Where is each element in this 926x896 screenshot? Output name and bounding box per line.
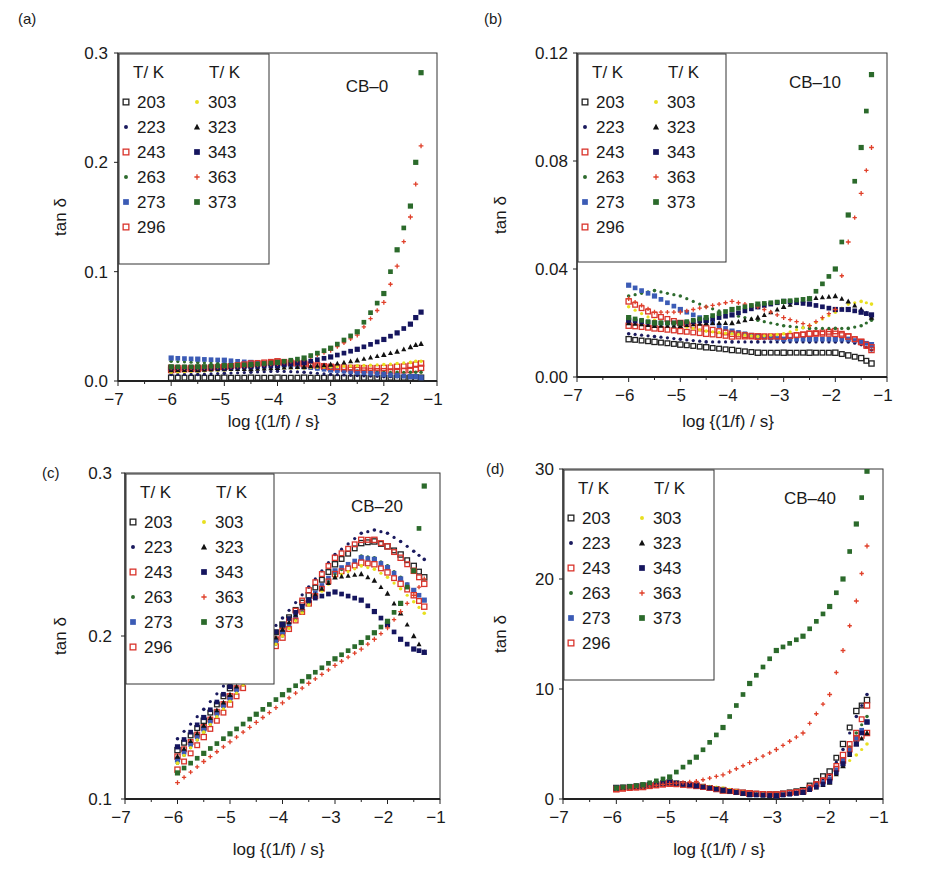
y-axis-label: tan δ <box>491 615 510 653</box>
y-tick-label: 0.2 <box>84 153 108 172</box>
legend-entry: 263 <box>137 168 165 187</box>
y-tick-label: 0.2 <box>88 627 112 646</box>
sample-label: CB–20 <box>351 497 403 516</box>
y-tick-label: 0.08 <box>535 152 568 171</box>
legend-header: T/ K <box>133 63 165 82</box>
x-tick-label: −6 <box>603 808 622 827</box>
legend-entry: 373 <box>653 609 681 628</box>
chart-panel-a: (a)−7−6−5−4−3−2−10.00.10.20.3log {(1/f) … <box>18 10 443 431</box>
x-tick-label: −3 <box>317 390 336 409</box>
y-tick-label: 0.12 <box>535 44 568 63</box>
legend-entry: 263 <box>582 584 610 603</box>
x-tick-label: −3 <box>763 808 782 827</box>
x-tick-label: −7 <box>563 386 582 405</box>
legend-entry: 263 <box>144 588 172 607</box>
x-tick-label: −1 <box>426 808 445 827</box>
legend-entry: 243 <box>144 563 172 582</box>
x-tick-label: −6 <box>157 390 176 409</box>
x-tick-label: −5 <box>667 386 686 405</box>
legend-entry: 343 <box>208 143 236 162</box>
legend-entry: 303 <box>215 513 243 532</box>
legend: T/ KT/ K20322324326327329630332334336337… <box>564 470 714 680</box>
legend-entry: 296 <box>596 218 624 237</box>
y-tick-label: 20 <box>535 570 554 589</box>
legend-entry: 363 <box>208 168 236 187</box>
x-tick-label: −5 <box>656 808 675 827</box>
chart-panel-c: (c)−7−6−5−4−3−2−10.10.20.3log {(1/f) / s… <box>42 464 446 859</box>
x-tick-label: −5 <box>216 808 235 827</box>
y-tick-label: 0 <box>545 790 554 809</box>
x-tick-label: −4 <box>269 808 288 827</box>
legend-entry: 303 <box>653 509 681 528</box>
x-tick-label: −6 <box>615 386 634 405</box>
panel-label: (d) <box>486 460 504 477</box>
x-tick-label: −3 <box>321 808 340 827</box>
y-tick-label: 0.00 <box>535 368 568 387</box>
sample-label: CB–40 <box>784 489 836 508</box>
legend-entry: 223 <box>137 118 165 137</box>
legend-header: T/ K <box>140 483 172 502</box>
legend-entry: 303 <box>667 93 695 112</box>
y-tick-label: 0.0 <box>84 372 108 391</box>
x-tick-label: −4 <box>709 808 728 827</box>
legend-entry: 243 <box>137 143 165 162</box>
legend: T/ KT/ K20322324326327329630332334336337… <box>578 54 726 262</box>
legend-header: T/ K <box>668 63 700 82</box>
chart-panel-b: (b)−7−6−5−4−3−2−10.000.040.080.12log {(1… <box>484 10 893 431</box>
legend-header: T/ K <box>592 63 624 82</box>
legend-entry: 343 <box>653 559 681 578</box>
legend-entry: 323 <box>215 538 243 557</box>
legend-entry: 223 <box>144 538 172 557</box>
panel-label: (b) <box>484 10 502 27</box>
sample-label: CB–0 <box>346 77 389 96</box>
chart-panel-d: (d)−7−6−5−4−3−2−10102030log {(1/f) / s}t… <box>486 460 889 859</box>
x-tick-label: −2 <box>374 808 393 827</box>
x-tick-label: −2 <box>370 390 389 409</box>
series-296 <box>614 730 870 797</box>
series-263 <box>615 715 869 798</box>
legend-entry: 363 <box>667 168 695 187</box>
x-axis-label: log {(1/f) / s} <box>228 412 320 431</box>
y-axis-label: tan δ <box>51 198 70 236</box>
legend-entry: 203 <box>596 93 624 112</box>
legend-entry: 203 <box>582 509 610 528</box>
figure-canvas: (a)−7−6−5−4−3−2−10.00.10.20.3log {(1/f) … <box>0 0 926 896</box>
x-tick-label: −7 <box>549 808 568 827</box>
legend-header: T/ K <box>578 479 610 498</box>
legend-header: T/ K <box>209 63 241 82</box>
legend-entry: 373 <box>215 613 243 632</box>
x-tick-label: −2 <box>816 808 835 827</box>
legend-entry: 363 <box>215 588 243 607</box>
legend: T/ KT/ K20322324326327329630332334336337… <box>126 474 274 684</box>
legend-entry: 323 <box>667 118 695 137</box>
legend-entry: 243 <box>582 559 610 578</box>
legend-entry: 223 <box>582 534 610 553</box>
x-tick-label: −3 <box>770 386 789 405</box>
y-tick-label: 0.3 <box>84 44 108 63</box>
legend-entry: 323 <box>653 534 681 553</box>
legend-entry: 296 <box>582 634 610 653</box>
x-tick-label: −2 <box>822 386 841 405</box>
panel-label: (c) <box>42 464 60 481</box>
legend: T/ KT/ K20322324326327329630332334336337… <box>119 54 269 264</box>
legend-entry: 323 <box>208 118 236 137</box>
sample-label: CB–10 <box>789 73 841 92</box>
x-tick-label: −4 <box>264 390 283 409</box>
x-tick-label: −6 <box>164 808 183 827</box>
x-tick-label: −5 <box>211 390 230 409</box>
x-axis-label: log {(1/f) / s} <box>233 840 325 859</box>
legend-entry: 223 <box>596 118 624 137</box>
y-axis-label: tan δ <box>491 196 510 234</box>
legend-entry: 243 <box>596 143 624 162</box>
legend-header: T/ K <box>216 483 248 502</box>
x-axis-label: log {(1/f) / s} <box>682 412 774 431</box>
y-tick-label: 0.1 <box>88 790 112 809</box>
panel-label: (a) <box>18 10 36 27</box>
legend-entry: 303 <box>208 93 236 112</box>
legend-entry: 343 <box>215 563 243 582</box>
legend-header: T/ K <box>654 479 686 498</box>
legend-entry: 343 <box>667 143 695 162</box>
x-tick-label: −4 <box>718 386 737 405</box>
legend-entry: 373 <box>667 193 695 212</box>
y-tick-label: 30 <box>535 460 554 479</box>
